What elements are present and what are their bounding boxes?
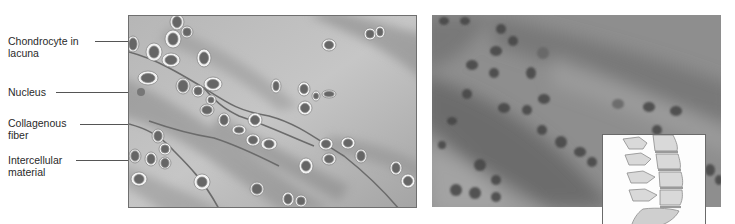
label-chondrocyte-line2: lacuna [8, 47, 79, 59]
label-chondrocyte: Chondrocyte in lacuna [8, 35, 79, 59]
label-intercellular-line1: Intercellular [8, 154, 62, 166]
lumbar-spine-icon [603, 135, 706, 224]
label-intercellular-line2: material [8, 166, 62, 178]
label-chondrocyte-line1: Chondrocyte in [8, 35, 79, 47]
cartilage-schematic [129, 16, 417, 208]
label-collagenous-fiber: Collagenous fiber [8, 117, 66, 141]
spine-inset [602, 134, 706, 224]
label-collagenous-line2: fiber [8, 129, 66, 141]
label-collagenous-line1: Collagenous [8, 117, 66, 129]
label-nucleus-text: Nucleus [8, 86, 46, 98]
label-nucleus: Nucleus [8, 86, 46, 98]
label-intercellular: Intercellular material [8, 154, 62, 178]
schematic-drawing [128, 15, 417, 208]
